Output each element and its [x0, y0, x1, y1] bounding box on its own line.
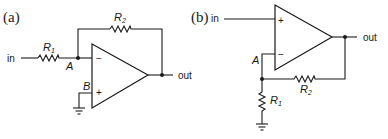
r2-label-a: R2 [114, 11, 126, 24]
noninverting-sign-b: + [278, 15, 284, 26]
inverting-sign-a: − [96, 53, 102, 64]
ground-icon-b [256, 124, 268, 130]
noninverting-sign-a: + [96, 87, 102, 98]
r1-label-b: R1 [270, 94, 282, 107]
inverting-sign-b: − [278, 49, 284, 60]
panel-label-a: (a) [3, 9, 20, 26]
panel-label-b: (b) [191, 9, 209, 26]
opamp-circuit-diagrams: (a) in R1 A R2 − + out B (b [0, 0, 388, 139]
node-a-label-b: A [251, 54, 259, 66]
inverting-input-wire-b [262, 54, 275, 79]
input-label-a: in [7, 53, 15, 64]
output-label-b: out [363, 32, 377, 43]
circuit-b-noninverting-amplifier: (b) in + − out A R2 R1 [191, 5, 377, 130]
node-a-label: A [65, 60, 73, 72]
node-b-label: B [83, 80, 90, 92]
resistor-r1-b [259, 79, 265, 124]
circuit-a-inverting-amplifier: (a) in R1 A R2 − + out B [3, 9, 192, 114]
noninverting-input-wire-a [79, 93, 92, 108]
output-node-a [160, 73, 164, 77]
input-label-b: in [211, 13, 219, 24]
output-label-a: out [178, 70, 192, 81]
r1-label-a: R1 [43, 41, 55, 54]
r2-label-b: R2 [300, 83, 312, 96]
ground-icon-a [73, 108, 85, 114]
